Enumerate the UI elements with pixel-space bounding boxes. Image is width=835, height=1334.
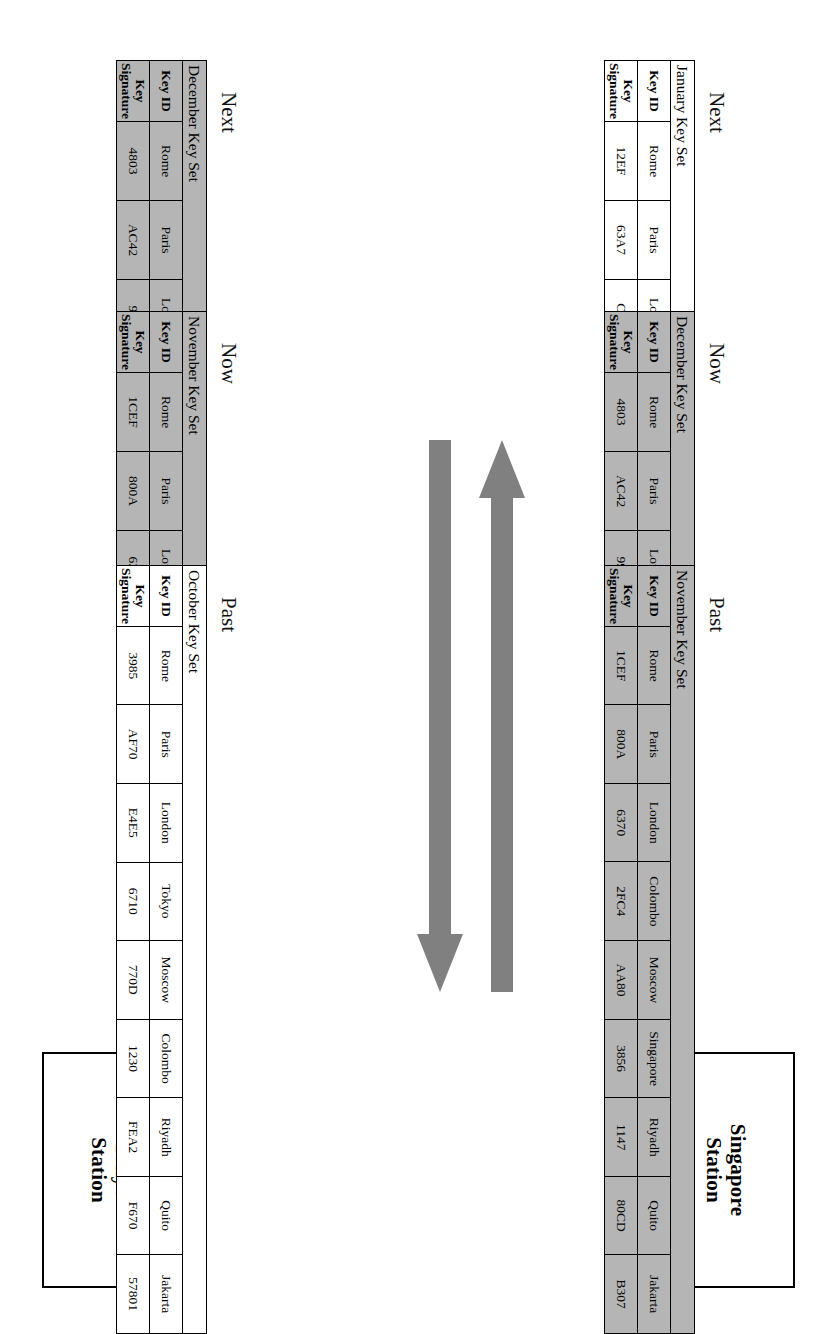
key-id-cell: Rome: [150, 122, 183, 201]
key-id-cell: Jakarta: [150, 1255, 183, 1334]
key-signature-cell: E4E5: [117, 783, 150, 862]
arrow-to-tokyo-icon: [413, 440, 463, 992]
column-header-key-signature-line2: Signature: [119, 314, 133, 370]
key-signature-cell: 4803: [605, 373, 638, 452]
key-signature-cell: 3985: [117, 627, 150, 705]
key-signature-cell: FEA2: [117, 1098, 150, 1177]
key-signature-cell: 6710: [117, 862, 150, 941]
keyset-title-row: November Key Set: [671, 566, 695, 1334]
keyset-title: October Key Set: [183, 566, 207, 1334]
column-header-key-signature: KeySignature: [605, 566, 638, 627]
column-header-key-signature: KeySignature: [117, 566, 150, 627]
column-header-key-signature-line1: Key: [133, 568, 147, 624]
key-id-cell: Jakarta: [638, 1255, 671, 1334]
key-signature-cell: AF70: [117, 705, 150, 783]
keyset-october-singapore: October Key SetKey IDRomeParisLondonToky…: [116, 565, 207, 1334]
column-header-key-signature-line1: Key: [133, 314, 147, 370]
keyset-signature-row: KeySignature1CEF800A63702FC4AA8038561147…: [605, 566, 638, 1334]
key-signature-cell: 1CEF: [117, 373, 150, 452]
station-label-line2: Station: [702, 1124, 726, 1216]
column-header-key-signature: KeySignature: [117, 312, 150, 373]
key-signature-cell: AA80: [605, 941, 638, 1020]
key-signature-cell: 800A: [605, 705, 638, 783]
key-signature-cell: 770D: [117, 941, 150, 1020]
column-header-key-signature: KeySignature: [605, 312, 638, 373]
keyset-november-tokyo: November Key SetKey IDRomeParisLondonCol…: [604, 565, 695, 1334]
station-label-line2: Station: [87, 1137, 111, 1203]
column-header-key-id: Key ID: [150, 566, 183, 627]
key-signature-cell: AC42: [117, 201, 150, 280]
diagram-canvas: Singapore Station Tokyo Station Next Now…: [0, 0, 835, 1334]
key-signature-cell: 800A: [117, 452, 150, 531]
station-label-line1: Singapore: [726, 1124, 750, 1216]
key-id-cell: Paris: [638, 201, 671, 280]
key-signature-cell: 57801: [117, 1255, 150, 1334]
key-signature-cell: 3856: [605, 1019, 638, 1098]
key-id-cell: Rome: [150, 627, 183, 705]
key-id-cell: Paris: [150, 452, 183, 531]
caption-now-singapore: Now: [216, 343, 241, 384]
keyset-id-row: Key IDRomeParisLondonTokyoMoscowColomboR…: [150, 566, 183, 1334]
column-header-key-id: Key ID: [638, 61, 671, 122]
column-header-key-signature-line2: Signature: [607, 314, 621, 370]
key-id-cell: Colombo: [638, 862, 671, 941]
key-id-cell: Riyadh: [638, 1098, 671, 1177]
key-id-cell: Paris: [638, 705, 671, 783]
keyset-title-row: October Key Set: [183, 566, 207, 1334]
caption-past-tokyo: Past: [704, 597, 729, 632]
arrow-to-singapore-icon: [475, 440, 525, 992]
caption-next-singapore: Next: [216, 92, 241, 133]
column-header-key-id: Key ID: [638, 566, 671, 627]
key-signature-cell: 1230: [117, 1019, 150, 1098]
key-signature-cell: AC42: [605, 452, 638, 531]
column-header-key-signature-line2: Signature: [119, 568, 133, 624]
key-id-cell: Colombo: [150, 1019, 183, 1098]
column-header-key-id: Key ID: [150, 312, 183, 373]
key-signature-cell: F670: [117, 1176, 150, 1254]
key-id-cell: Rome: [638, 373, 671, 452]
key-id-cell: Paris: [150, 201, 183, 280]
column-header-key-signature: KeySignature: [605, 61, 638, 122]
key-signature-cell: 2FC4: [605, 862, 638, 941]
key-id-cell: Rome: [150, 373, 183, 452]
column-header-key-signature: KeySignature: [117, 61, 150, 122]
column-header-key-id: Key ID: [150, 61, 183, 122]
key-signature-cell: 63A7: [605, 201, 638, 280]
key-id-cell: London: [638, 783, 671, 862]
column-header-key-signature-line1: Key: [621, 314, 635, 370]
key-signature-cell: B307: [605, 1255, 638, 1334]
column-header-key-signature-line2: Signature: [607, 63, 621, 119]
key-signature-cell: 6370: [605, 783, 638, 862]
key-id-cell: Quito: [150, 1176, 183, 1254]
key-signature-cell: 1CEF: [605, 627, 638, 705]
key-id-cell: London: [150, 783, 183, 862]
column-header-key-signature-line2: Signature: [119, 63, 133, 119]
keyset-id-row: Key IDRomeParisLondonColomboMoscowSingap…: [638, 566, 671, 1334]
keyset-signature-row: KeySignature3985AF70E4E56710770D1230FEA2…: [117, 566, 150, 1334]
column-header-key-signature-line2: Signature: [607, 568, 621, 624]
key-id-cell: Moscow: [638, 941, 671, 1020]
key-id-cell: Rome: [638, 627, 671, 705]
key-signature-cell: 80CD: [605, 1176, 638, 1254]
key-id-cell: Paris: [150, 705, 183, 783]
key-signature-cell: 12EF: [605, 122, 638, 201]
column-header-key-id: Key ID: [638, 312, 671, 373]
column-header-key-signature-line1: Key: [621, 568, 635, 624]
column-header-key-signature-line1: Key: [621, 63, 635, 119]
caption-now-tokyo: Now: [704, 343, 729, 384]
column-header-key-signature-line1: Key: [133, 63, 147, 119]
key-id-cell: Tokyo: [150, 862, 183, 941]
caption-past-singapore: Past: [216, 597, 241, 632]
key-id-cell: Rome: [638, 122, 671, 201]
keyset-title: November Key Set: [671, 566, 695, 1334]
key-id-cell: Quito: [638, 1176, 671, 1254]
key-id-cell: Moscow: [150, 941, 183, 1020]
key-id-cell: Riyadh: [150, 1098, 183, 1177]
caption-next-tokyo: Next: [704, 92, 729, 133]
key-id-cell: Singapore: [638, 1019, 671, 1098]
key-signature-cell: 1147: [605, 1098, 638, 1177]
key-id-cell: Paris: [638, 452, 671, 531]
key-signature-cell: 4803: [117, 122, 150, 201]
